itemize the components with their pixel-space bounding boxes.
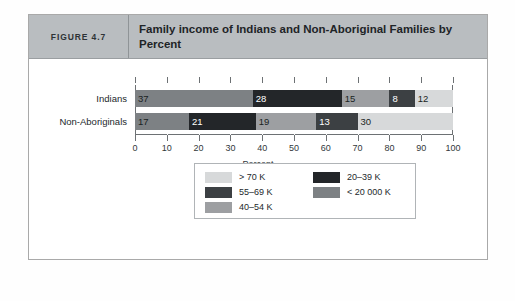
bar-segment: 37 [135,90,253,107]
x-tick-label: 20 [194,143,204,153]
chart-legend: > 70 K55–69 K40–54 K 20–39 K< 20 000 K [194,163,416,219]
axis-tick [230,135,231,141]
bar-segment: 17 [135,113,189,130]
axis-tick [230,77,231,83]
axis-tick [453,77,454,83]
x-tick-label: 100 [445,143,460,153]
axis-tick [421,135,422,141]
x-tick-label: 10 [162,143,172,153]
axis-tick [135,135,136,141]
bar-segment: 13 [316,113,357,130]
bar-segment-value: 15 [342,93,356,104]
bar-segment: 19 [256,113,316,130]
legend-item: > 70 K [205,171,273,183]
axis-tick [199,135,200,141]
figure-screenshot: FIGURE 4.7 Family income of Indians and … [0,0,515,301]
axis-tick [262,77,263,83]
axis-tick [358,77,359,83]
x-tick-label: 70 [353,143,363,153]
bar-segment-value: 30 [358,116,372,127]
legend-label: 20–39 K [347,172,381,182]
bar-segment: 21 [189,113,256,130]
bar-segment: 8 [389,90,414,107]
stacked-bar-row: 1721191330 [135,113,453,130]
bar-category-label: Indians [25,93,127,104]
figure-number-label: FIGURE 4.7 [29,15,129,58]
legend-swatch [313,187,340,198]
axis-tick [262,135,263,141]
axis-tick [167,135,168,141]
chart-plot-area: 0102030405060708090100 Percent 372815812… [29,59,487,261]
legend-swatch [205,202,232,213]
figure-header: FIGURE 4.7 Family income of Indians and … [29,15,487,59]
bar-segment: 28 [253,90,342,107]
legend-swatch [313,172,340,183]
axis-tick [389,135,390,141]
bar-segment-value: 37 [135,93,149,104]
bar-segment-value: 8 [389,93,397,104]
legend-swatch [205,172,232,183]
axis-tick [199,77,200,83]
bar-segment-value: 19 [256,116,270,127]
legend-column-right: 20–39 K< 20 000 K [313,171,391,198]
x-tick-label: 30 [225,143,235,153]
legend-label: > 70 K [239,172,265,182]
axis-tick [358,135,359,141]
bar-segment-value: 12 [415,93,429,104]
legend-item: 55–69 K [205,186,273,198]
bar-segment-value: 17 [135,116,149,127]
x-tick-label: 40 [257,143,267,153]
bar-segment: 30 [358,113,453,130]
x-tick-label: 50 [289,143,299,153]
axis-tick [453,135,454,141]
legend-item: < 20 000 K [313,186,391,198]
x-tick-label: 0 [132,143,137,153]
bar-segment-value: 28 [253,93,267,104]
legend-item: 20–39 K [313,171,391,183]
bar-segment: 12 [415,90,453,107]
axis-tick [421,77,422,83]
x-tick-label: 80 [384,143,394,153]
legend-label: < 20 000 K [347,187,391,197]
bar-segment: 15 [342,90,390,107]
axis-tick [389,77,390,83]
bar-segment-value: 13 [316,116,330,127]
axis-tick [294,135,295,141]
axis-tick [294,77,295,83]
x-tick-label: 90 [416,143,426,153]
axis-tick [326,77,327,83]
stacked-bar-row: 372815812 [135,90,453,107]
figure-title: Family income of Indians and Non-Aborigi… [129,15,487,58]
x-tick-label: 60 [321,143,331,153]
figure-container: FIGURE 4.7 Family income of Indians and … [28,14,488,260]
legend-swatch [205,187,232,198]
bar-segment-value: 21 [189,116,203,127]
axis-tick [326,135,327,141]
bar-category-label: Non-Aboriginals [25,116,127,127]
legend-item: 40–54 K [205,201,273,213]
legend-column-left: > 70 K55–69 K40–54 K [205,171,273,213]
axis-tick [167,77,168,83]
legend-label: 40–54 K [239,202,273,212]
axis-tick [135,77,136,83]
legend-label: 55–69 K [239,187,273,197]
